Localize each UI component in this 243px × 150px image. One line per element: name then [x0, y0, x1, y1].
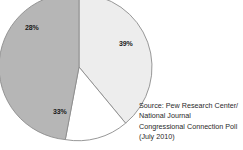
source-note-line-4: (July 2010): [139, 132, 243, 142]
source-note-line-3: Congressional Connection Poll: [139, 122, 243, 132]
pie-slice-label-39: 39%: [119, 40, 133, 47]
pie-slice-28: [0, 0, 79, 140]
source-note-line-2: National Journal: [139, 111, 243, 121]
pie-slice-label-28: 28%: [25, 24, 39, 31]
source-note-line-1: Source: Pew Research Center/: [139, 101, 243, 111]
source-note: Source: Pew Research Center/ National Jo…: [139, 101, 243, 143]
pie-chart-figure: 39% 33% 28% Source: Pew Research Center/…: [0, 0, 243, 150]
pie-slice-label-33: 33%: [53, 108, 67, 115]
